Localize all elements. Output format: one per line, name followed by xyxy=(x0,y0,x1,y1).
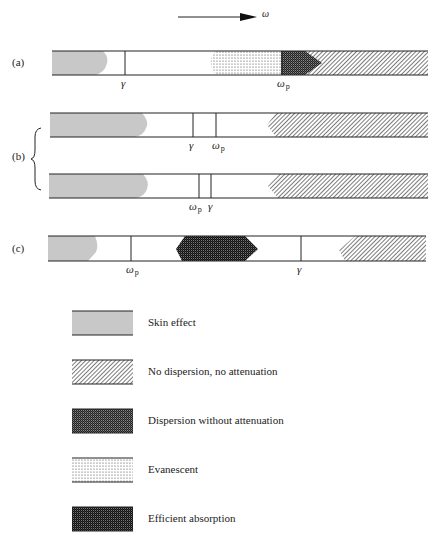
brace xyxy=(31,128,41,190)
marker-label-omega-p: ωp xyxy=(277,77,290,89)
legend-swatch-evanescent xyxy=(72,458,133,482)
absorption-region xyxy=(176,236,258,261)
frequency-regime-diagram xyxy=(0,0,440,543)
legend-label-skin: Skin effect xyxy=(148,316,196,328)
skin-effect-region xyxy=(50,113,147,137)
legend-swatch-no-dispersion xyxy=(72,360,133,384)
band-a xyxy=(52,51,428,75)
skin-effect-region xyxy=(52,51,107,75)
band-c xyxy=(48,236,426,261)
no-dispersion-region xyxy=(268,174,428,198)
no-dispersion-region xyxy=(339,236,426,261)
marker-label-omega-p: ωp xyxy=(126,263,139,275)
legend-label-dispersion: Dispersion without attenuation xyxy=(148,414,284,426)
skin-effect-region xyxy=(48,236,97,261)
marker-label-omega-p: ωp xyxy=(212,139,225,151)
legend-swatch-skin xyxy=(72,311,133,335)
marker-label-gamma: γ xyxy=(297,263,301,275)
marker-label-gamma: γ xyxy=(208,200,212,212)
skin-effect-region xyxy=(49,174,148,198)
band-b-row-1 xyxy=(50,113,428,137)
omega-axis-label: ω xyxy=(262,8,269,19)
marker-label-omega-p: ωp xyxy=(189,200,202,212)
frequency-arrow xyxy=(178,13,257,21)
legend-swatch-absorption xyxy=(72,507,133,531)
panel-label-a: (a) xyxy=(12,56,24,68)
marker-label-gamma: γ xyxy=(189,139,193,151)
legend-label-evanescent: Evanescent xyxy=(148,463,198,475)
panel-label-b: (b) xyxy=(12,150,25,162)
marker-label-gamma: γ xyxy=(121,77,125,89)
legend-swatch-dispersion xyxy=(72,409,133,433)
legend-label-no-dispersion: No dispersion, no attenuation xyxy=(148,365,278,377)
band-b-row-2 xyxy=(49,174,428,198)
evanescent-region xyxy=(211,51,283,75)
legend-label-absorption: Efficient absorption xyxy=(148,512,235,524)
panel-label-c: (c) xyxy=(12,242,24,254)
no-dispersion-region xyxy=(267,113,428,137)
